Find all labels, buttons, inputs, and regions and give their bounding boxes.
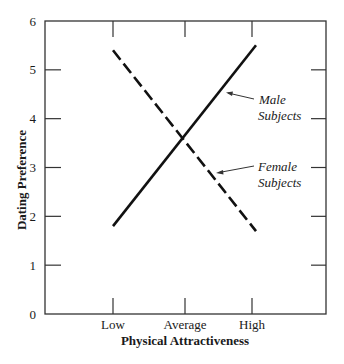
line-chart: 0123456 LowAverageHigh Male Subjects Fem… <box>0 0 344 364</box>
y-tick-label: 5 <box>30 62 37 77</box>
male-label-line2: Subjects <box>258 108 301 123</box>
x-tick-label: High <box>239 317 266 332</box>
female-label-line1: Female <box>257 159 297 174</box>
data-series <box>113 45 256 231</box>
female-arrow-line <box>219 166 254 173</box>
y-axis-title: Dating Preference <box>14 130 29 230</box>
annotation-female: Female Subjects <box>216 159 301 190</box>
chart-svg: 0123456 LowAverageHigh Male Subjects Fem… <box>0 0 344 364</box>
y-tick-label: 6 <box>30 14 37 29</box>
male-label-line1: Male <box>258 92 286 107</box>
annotation-male: Male Subjects <box>226 92 301 124</box>
male-subjects-line <box>113 45 256 226</box>
y-tick-label: 2 <box>30 209 37 224</box>
y-tick-label: 1 <box>30 258 37 273</box>
x-axis-title: Physical Attractiveness <box>121 333 249 348</box>
y-tick-label: 3 <box>30 160 37 175</box>
female-label-line2: Subjects <box>258 175 301 190</box>
female-arrowhead-icon <box>216 170 224 175</box>
x-tick-label: Low <box>101 317 125 332</box>
y-tick-label: 0 <box>30 307 37 322</box>
y-tick-label: 4 <box>30 111 37 126</box>
female-subjects-line <box>113 50 256 231</box>
x-tick-label: Average <box>163 317 206 332</box>
male-arrowhead-icon <box>226 92 233 97</box>
